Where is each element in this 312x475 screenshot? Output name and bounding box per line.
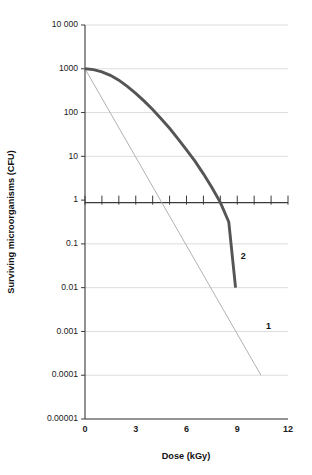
y-tick-label-group: 10 00010001001010.10.010.0010.00010.0000… [47,19,78,423]
x-tick-label-0: 0 [82,424,87,434]
x-tick-label-3: 3 [133,424,138,434]
y-tick-label-1000: 1000 [59,63,78,73]
y-tick-label-10 000: 10 000 [52,19,79,29]
y-tick-label-1: 1 [73,194,78,204]
y-tick-group [81,25,85,419]
series-1-line [85,69,261,375]
y-tick-label-0.001: 0.001 [56,326,78,336]
survival-curve-chart: 10 00010001001010.10.010.0010.00010.0000… [0,0,312,475]
chart-figure: 10 00010001001010.10.010.0010.00010.0000… [0,0,312,475]
x-tick-label-9: 9 [235,424,240,434]
x-axis-title: Dose (kGy) [162,451,211,461]
y-tick-label-0.01: 0.01 [61,282,78,292]
y-tick-label-10: 10 [68,151,78,161]
x-minor-tick-group [85,196,288,205]
x-tick-label-12: 12 [283,424,293,434]
x-tick-label-6: 6 [184,424,189,434]
y-axis-title: Surviving microorganisms (CFU) [6,150,16,293]
x-tick-label-group: 036912 [82,424,293,434]
y-tick-label-0.1: 0.1 [66,238,78,248]
y-tick-label-0.0001: 0.0001 [52,369,79,379]
series-2-line [85,69,236,288]
series-2-annotation: 2 [241,251,246,261]
y-tick-label-100: 100 [64,107,79,117]
y-tick-label-0.00001: 0.00001 [47,413,78,423]
series-1-annotation: 1 [266,321,271,331]
gridline-group [85,25,288,419]
